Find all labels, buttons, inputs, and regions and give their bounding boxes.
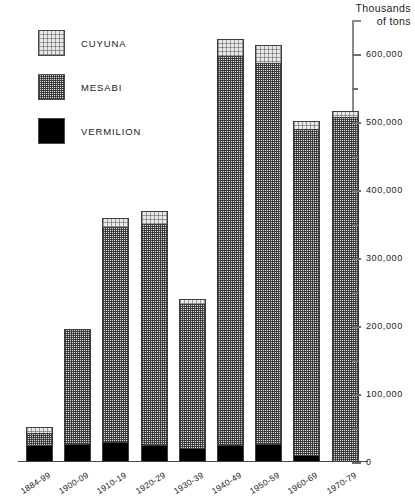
plot-area: 1884-991900-091910-191920-291930-391940-…	[0, 0, 415, 500]
y-tick-minor-150000	[352, 360, 358, 362]
y-tick-minor-450000	[352, 156, 358, 158]
bar-segment-vermilion-1884-99	[26, 445, 53, 462]
x-axis-label-1884-99: 1884-99	[19, 470, 53, 496]
bar-segment-cuyuna-1920-29	[141, 211, 168, 224]
bar-segment-vermilion-1920-29	[141, 445, 168, 462]
bar-segment-cuyuna-1960-69	[293, 121, 320, 129]
bar-segment-vermilion-1950-59	[255, 444, 282, 462]
bar-segment-mesabi-1884-99	[26, 433, 53, 445]
bar-1900-09[interactable]	[64, 329, 91, 462]
y-tick-major-400000	[352, 190, 361, 192]
y-tick-label-600000: 600,000	[366, 49, 403, 59]
y-tick-major-0	[352, 462, 361, 464]
bar-segment-mesabi-1900-09	[64, 329, 91, 444]
y-tick-label-100000: 100,000	[366, 389, 403, 399]
y-tick-major-600000	[352, 54, 361, 56]
y-tick-label-400000: 400,000	[366, 185, 403, 195]
bar-segment-mesabi-1950-59	[255, 63, 282, 444]
x-axis-label-1940-49: 1940-49	[210, 470, 244, 496]
bar-segment-mesabi-1920-29	[141, 224, 168, 445]
bar-1960-69[interactable]	[293, 121, 320, 462]
bar-segment-vermilion-1940-49	[217, 445, 244, 462]
bar-1970-79[interactable]	[332, 111, 359, 462]
bar-1930-39[interactable]	[179, 299, 206, 462]
bar-segment-vermilion-1960-69	[293, 455, 320, 462]
x-axis-label-1910-19: 1910-19	[95, 470, 129, 496]
y-tick-label-0: 0	[366, 457, 372, 467]
bar-segment-cuyuna-1940-49	[217, 39, 244, 56]
x-axis-label-1950-59: 1950-59	[248, 470, 282, 496]
bar-segment-vermilion-1930-39	[179, 448, 206, 462]
x-axis-label-1960-69: 1960-69	[286, 470, 320, 496]
bar-segment-cuyuna-1950-59	[255, 45, 282, 63]
y-tick-label-300000: 300,000	[366, 253, 403, 263]
y-tick-minor-50000	[352, 428, 358, 430]
y-tick-major-300000	[352, 258, 361, 260]
bar-1910-19[interactable]	[102, 218, 129, 462]
y-tick-minor-350000	[352, 224, 358, 226]
bar-1920-29[interactable]	[141, 211, 168, 462]
y-tick-label-200000: 200,000	[366, 321, 403, 331]
x-axis-label-1920-29: 1920-29	[133, 470, 167, 496]
x-axis-label-1900-09: 1900-09	[57, 470, 91, 496]
y-tick-major-200000	[352, 326, 361, 328]
bar-segment-mesabi-1930-39	[179, 304, 206, 449]
bar-segment-vermilion-1900-09	[64, 444, 91, 462]
bar-segment-mesabi-1970-79	[332, 117, 359, 462]
y-tick-minor-550000	[352, 88, 358, 90]
x-axis-label-1930-39: 1930-39	[171, 470, 205, 496]
x-axis-label-1970-79: 1970-79	[324, 470, 358, 496]
bar-1940-49[interactable]	[217, 39, 244, 462]
bar-segment-mesabi-1940-49	[217, 56, 244, 445]
bar-1950-59[interactable]	[255, 45, 282, 462]
bar-1884-99[interactable]	[26, 427, 53, 462]
y-tick-major-100000	[352, 394, 361, 396]
chart-root: Thousands of tons CUYUNA MESABI VERMILIO…	[0, 0, 415, 500]
bar-segment-cuyuna-1910-19	[102, 218, 129, 227]
y-tick-minor-250000	[352, 292, 358, 294]
y-tick-label-500000: 500,000	[366, 117, 403, 127]
y-axis-top-cap	[352, 20, 361, 22]
bar-segment-mesabi-1960-69	[293, 129, 320, 455]
bar-segment-vermilion-1910-19	[102, 442, 129, 462]
bar-segment-mesabi-1910-19	[102, 227, 129, 443]
y-tick-major-500000	[352, 122, 361, 124]
